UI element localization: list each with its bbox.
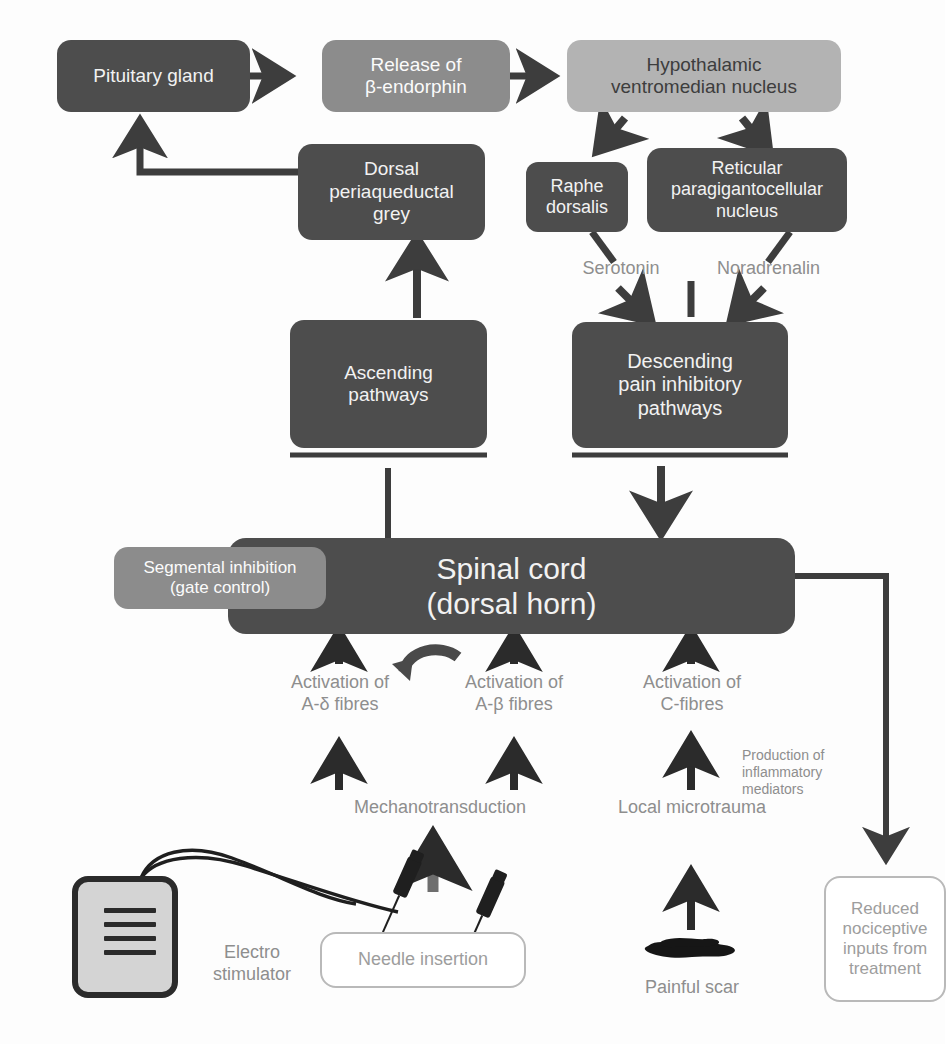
stimulator-control-line-2 (104, 922, 156, 927)
box-reduced-nociceptive-inputs-label: Reduced nociceptive inputs from treatmen… (842, 899, 927, 979)
arrow-dpag-to-pituitary (140, 122, 298, 172)
arrow-serotonin-to-descending (618, 288, 650, 320)
arrow-spinal-to-reduced-nociceptive (795, 576, 886, 858)
arrow-hypothalamic-to-reticular (742, 118, 768, 150)
label-activation-a-delta: Activation of A-δ fibres (274, 672, 406, 715)
box-hypothalamic-nucleus-label: Hypothalamic ventromedian nucleus (611, 54, 797, 99)
label-activation-a-beta: Activation of A-β fibres (448, 672, 580, 715)
arrow-hypothalamic-to-raphe (598, 118, 625, 150)
box-reticular-nucleus-label: Reticular paragigantocellular nucleus (671, 158, 823, 222)
box-release-beta-endorphin-label: Release of β-endorphin (365, 54, 467, 99)
box-needle-insertion-label: Needle insertion (358, 949, 488, 970)
painful-scar-glyph (645, 938, 735, 958)
stimulator-control-line-1 (104, 908, 156, 913)
arrow-noradrenalin-to-descending (732, 288, 764, 320)
box-dorsal-periaqueductal-grey[interactable]: Dorsal periaqueductal grey (298, 144, 485, 240)
stimulator-control-line-4 (104, 950, 156, 955)
label-mechanotransduction: Mechanotransduction (328, 797, 552, 819)
box-descending-pathways[interactable]: Descending pain inhibitory pathways (572, 322, 788, 448)
box-spinal-cord-label: Spinal cord (dorsal horn) (426, 551, 596, 622)
box-reticular-nucleus[interactable]: Reticular paragigantocellular nucleus (647, 148, 847, 232)
box-segmental-inhibition-label: Segmental inhibition (gate control) (143, 558, 296, 598)
label-painful-scar: Painful scar (628, 977, 756, 999)
box-ascending-pathways-label: Ascending pathways (344, 362, 433, 407)
label-local-microtrauma: Local microtrauma (596, 797, 788, 819)
box-descending-pathways-label: Descending pain inhibitory pathways (618, 350, 741, 421)
box-segmental-inhibition[interactable]: Segmental inhibition (gate control) (114, 547, 326, 609)
box-pituitary-gland[interactable]: Pituitary gland (57, 40, 250, 112)
box-raphe-dorsalis-label: Raphe dorsalis (546, 176, 608, 218)
box-needle-insertion[interactable]: Needle insertion (320, 932, 526, 988)
stimulator-control-line-3 (104, 936, 156, 941)
label-noradrenalin: Noradrenalin (706, 258, 831, 280)
label-activation-c-fibres: Activation of C-fibres (626, 672, 758, 715)
label-electro-stimulator: Electro stimulator (192, 942, 312, 985)
box-pituitary-gland-label: Pituitary gland (93, 65, 213, 87)
box-hypothalamic-nucleus[interactable]: Hypothalamic ventromedian nucleus (567, 40, 841, 112)
box-dorsal-periaqueductal-grey-label: Dorsal periaqueductal grey (329, 158, 454, 225)
box-release-beta-endorphin[interactable]: Release of β-endorphin (322, 40, 510, 112)
label-serotonin: Serotonin (566, 258, 676, 280)
box-ascending-pathways[interactable]: Ascending pathways (290, 320, 487, 448)
box-reduced-nociceptive-inputs[interactable]: Reduced nociceptive inputs from treatmen… (824, 876, 946, 1002)
electro-stimulator-device[interactable] (72, 876, 178, 998)
label-inflammatory-mediators: Production of inflammatory mediators (742, 747, 867, 797)
box-raphe-dorsalis[interactable]: Raphe dorsalis (526, 162, 628, 232)
